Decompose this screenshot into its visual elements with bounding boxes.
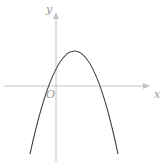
y-axis-label: y — [45, 3, 53, 16]
y-axis-arrow-icon — [53, 12, 59, 19]
parabola-diagram: x y O — [0, 0, 163, 167]
y-axis — [53, 12, 59, 162]
x-axis — [4, 83, 150, 89]
x-axis-label: x — [154, 88, 161, 101]
parabola-curve — [30, 51, 118, 154]
origin-label: O — [46, 88, 55, 101]
x-axis-arrow-icon — [143, 83, 150, 89]
